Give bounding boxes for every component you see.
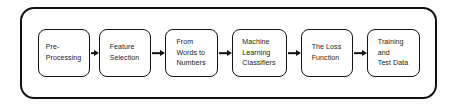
arrow-the-loss-function-to-training-and-test-data bbox=[353, 48, 367, 58]
node-from-words-to-numbers[interactable]: From Words to Numbers bbox=[165, 29, 218, 77]
arrow-head-icon bbox=[94, 50, 99, 56]
arrow-head-icon bbox=[362, 50, 367, 56]
node-label-machine-learning-classifiers: Machine Learning Classifiers bbox=[237, 37, 280, 70]
arrow-machine-learning-classifiers-to-the-loss-function bbox=[287, 48, 301, 58]
node-label-feature-selection: Feature Selection bbox=[105, 42, 145, 64]
node-training-and-test-data[interactable]: Training and Test Data bbox=[367, 29, 420, 77]
node-machine-learning-classifiers[interactable]: Machine Learning Classifiers bbox=[232, 29, 287, 77]
node-label-pre-processing: Pre- Processing bbox=[41, 42, 87, 64]
arrow-head-icon bbox=[296, 50, 301, 56]
arrow-from-words-to-numbers-to-machine-learning-classifiers bbox=[218, 48, 232, 58]
node-the-loss-function[interactable]: The Loss Function bbox=[301, 29, 353, 77]
arrow-head-icon bbox=[160, 50, 165, 56]
arrow-pre-processing-to-feature-selection bbox=[90, 48, 99, 58]
arrow-feature-selection-to-from-words-to-numbers bbox=[151, 48, 165, 58]
node-label-from-words-to-numbers: From Words to Numbers bbox=[171, 37, 210, 70]
node-label-the-loss-function: The Loss Function bbox=[307, 42, 347, 64]
arrow-head-icon bbox=[227, 50, 232, 56]
node-pre-processing[interactable]: Pre- Processing bbox=[38, 29, 90, 77]
diagram-canvas: Pre- Processing Feature Selection From W… bbox=[0, 0, 462, 107]
node-label-training-and-test-data: Training and Test Data bbox=[373, 37, 413, 70]
node-feature-selection[interactable]: Feature Selection bbox=[99, 29, 151, 77]
pipeline-flow-row: Pre- Processing Feature Selection From W… bbox=[20, 7, 437, 99]
